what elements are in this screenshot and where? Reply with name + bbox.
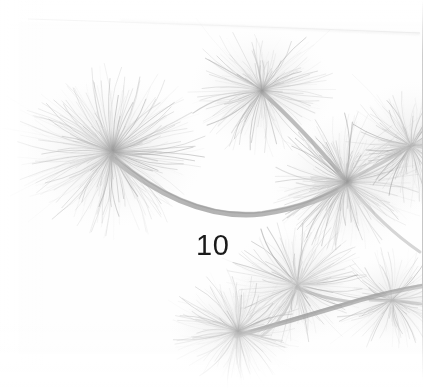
scanned-book-page: 10: [0, 0, 444, 392]
node-lower-far-right: [382, 291, 402, 309]
page-number: 10: [196, 231, 229, 260]
page-right-margin: [423, 0, 444, 392]
pine-branch-photograph: [0, 0, 423, 392]
node-right-middle: [333, 168, 361, 194]
node-top-center: [250, 78, 274, 102]
node-far-right: [399, 133, 423, 159]
node-lower-left: [225, 320, 251, 342]
node-left-large: [96, 128, 130, 172]
node-lower-right: [285, 274, 309, 296]
pine-branch-illustration: [0, 0, 423, 392]
